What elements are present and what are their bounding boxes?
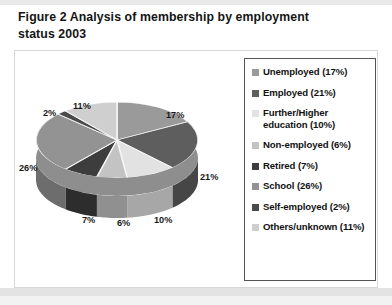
pie-data-label: 17% (166, 110, 184, 120)
legend-item-label: Unemployed (17%) (263, 66, 347, 78)
legend-item-label: Self-employed (2%) (263, 201, 350, 213)
scan-edge-top (0, 0, 392, 5)
legend-item: Further/Higher education (10%) (252, 107, 369, 130)
pie-data-label: 6% (117, 218, 130, 228)
legend-item-label: Non-employed (6%) (263, 139, 351, 151)
legend-item-label: School (26%) (263, 180, 322, 192)
scan-edge-bottom-light (0, 296, 392, 305)
legend-swatch (252, 183, 259, 190)
pie-data-label: 11% (73, 101, 91, 111)
legend-item: Self-employed (2%) (252, 201, 369, 213)
legend-swatch (252, 204, 259, 211)
pie-wall-segment (97, 195, 127, 218)
legend-item-label: Further/Higher education (10%) (263, 107, 369, 130)
pie-data-label: 21% (200, 172, 218, 182)
pie-chart: 17%21%10%6%7%26%2%11% (14, 50, 246, 288)
legend-item-label: Others/unknown (11%) (263, 221, 364, 233)
pie-wall-segment (127, 186, 172, 218)
legend-swatch (252, 142, 259, 149)
chart-legend: Unemployed (17%)Employed (21%)Further/Hi… (244, 58, 376, 281)
legend-item: Retired (7%) (252, 160, 369, 172)
pie-data-label: 10% (154, 215, 172, 225)
legend-item: Employed (21%) (252, 87, 369, 99)
legend-swatch (252, 90, 259, 97)
pie-data-label: 7% (82, 215, 95, 225)
legend-swatch (252, 224, 259, 231)
legend-item-label: Retired (7%) (263, 160, 318, 172)
legend-swatch (252, 69, 259, 76)
legend-swatch (252, 110, 259, 117)
legend-list: Unemployed (17%)Employed (21%)Further/Hi… (252, 66, 369, 233)
legend-swatch (252, 163, 259, 170)
legend-item: Unemployed (17%) (252, 66, 369, 78)
pie-data-label: 2% (43, 108, 56, 118)
pie-data-label: 26% (19, 163, 37, 173)
figure-title: Figure 2 Analysis of membership by emplo… (18, 9, 348, 43)
figure-screenshot: Figure 2 Analysis of membership by emplo… (0, 0, 392, 305)
legend-item: School (26%) (252, 180, 369, 192)
legend-item: Non-employed (6%) (252, 139, 369, 151)
legend-item: Others/unknown (11%) (252, 221, 369, 233)
legend-item-label: Employed (21%) (263, 87, 336, 99)
pie-wall-segment (65, 187, 97, 217)
